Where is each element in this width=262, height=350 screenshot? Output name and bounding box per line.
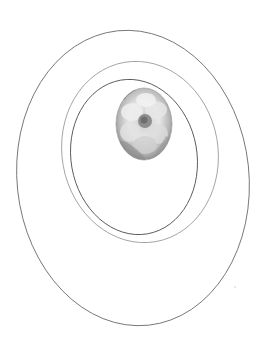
speck (234, 286, 236, 288)
decorative-frame-canvas (0, 0, 262, 350)
outer-ring (2, 19, 262, 338)
